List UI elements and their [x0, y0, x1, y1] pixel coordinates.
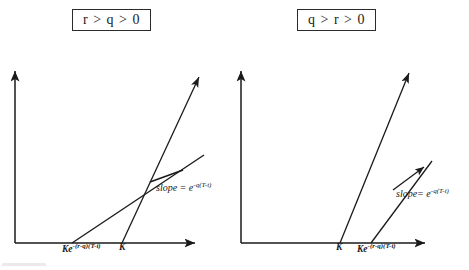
diagram-canvas — [0, 0, 469, 270]
slope-annotation-left-text: slope = e-q(T-t) — [156, 182, 211, 193]
x-tick-right-2-text: Ke-(r-q)(T-t) — [357, 244, 396, 254]
scan-artifact — [2, 263, 46, 266]
x-tick-right-1-text: K — [336, 242, 342, 252]
x-tick-right-2: Ke-(r-q)(T-t) — [357, 243, 396, 255]
right-steep-payoff-line — [340, 73, 409, 243]
x-tick-left-2: K — [119, 243, 125, 253]
slope-annotation-left: slope = e-q(T-t) — [156, 182, 211, 193]
right-axes — [241, 71, 425, 243]
right-shallow-payoff-line — [371, 161, 432, 243]
x-tick-left-2-text: K — [119, 242, 125, 252]
slope-annotation-right-text: slope= e-q(T-t) — [396, 188, 449, 199]
left-axes — [15, 71, 195, 243]
left-steep-payoff-line — [122, 77, 199, 243]
x-tick-left-1: Ke-(r-q)(T-t) — [62, 243, 101, 255]
slope-annotation-right: slope= e-q(T-t) — [396, 188, 449, 199]
x-tick-left-1-text: Ke-(r-q)(T-t) — [62, 244, 101, 254]
right-curves — [340, 73, 432, 243]
left-shallow-payoff-line — [72, 155, 204, 243]
left-curves — [72, 77, 204, 243]
x-tick-right-1: K — [336, 243, 342, 253]
